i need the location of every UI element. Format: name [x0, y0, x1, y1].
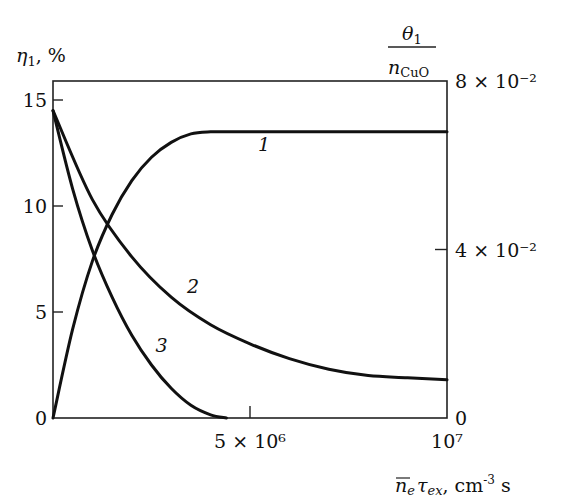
- chart: 05101504 × 10⁻²8 × 10⁻²5 × 10⁶10⁷ 123 η1…: [0, 0, 561, 502]
- x-axis-label: neτex, cm-3 s: [395, 473, 511, 498]
- axis-ticks: [53, 100, 447, 418]
- x-tick-label: 10⁷: [431, 430, 463, 452]
- y-left-tick-label: 10: [23, 195, 47, 217]
- x-tick-label: 5 × 10⁶: [214, 430, 286, 452]
- y-right-tick-label: 4 × 10⁻²: [455, 239, 537, 261]
- y-right-axis-label: θ1 nCuO: [388, 22, 436, 80]
- curves: [53, 111, 447, 418]
- curve-label-1: 1: [258, 133, 270, 155]
- curve-label-3: 3: [155, 334, 167, 356]
- y-left-tick-label: 15: [23, 89, 47, 111]
- svg-text:neτex, cm-3 s: neτex, cm-3 s: [395, 473, 511, 498]
- y-right-tick-label: 8 × 10⁻²: [455, 70, 537, 92]
- curve-2: [53, 111, 447, 380]
- y-left-tick-label: 5: [35, 301, 47, 323]
- y-right-tick-label: 0: [455, 407, 467, 429]
- tick-labels: 05101504 × 10⁻²8 × 10⁻²5 × 10⁶10⁷: [23, 70, 537, 452]
- svg-text:nCuO: nCuO: [388, 56, 429, 80]
- curve-1: [53, 132, 447, 418]
- curve-labels: 123: [155, 133, 270, 356]
- svg-text:θ1: θ1: [402, 22, 422, 47]
- y-left-tick-label: 0: [35, 407, 47, 429]
- curve-label-2: 2: [186, 275, 199, 297]
- y-left-axis-label: η1, %: [16, 44, 66, 69]
